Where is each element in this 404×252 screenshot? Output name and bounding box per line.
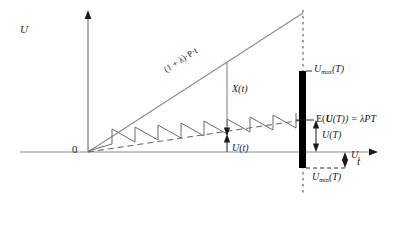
- terminal-range-bar: [299, 71, 306, 168]
- umax-label: Umax(T): [314, 64, 344, 74]
- uT-label: U(T): [322, 130, 341, 140]
- expectation-label: E(U(T)) = λPT: [316, 114, 376, 124]
- umax-sub: max: [321, 68, 332, 75]
- umin-label: Umin(T): [312, 172, 341, 182]
- process-ut-label: U(t): [232, 143, 249, 153]
- mean-drift-line: [88, 120, 303, 152]
- umin-sub: min: [319, 176, 329, 183]
- uT-measure-arrow: [313, 120, 319, 152]
- y-axis-label: U: [20, 24, 28, 35]
- figure-canvas: U t 0 (1 + λ)·P·t X(t) U(t) Umax(T) E(U(…: [0, 0, 404, 252]
- expectation-mid: (T)) =: [333, 113, 360, 124]
- ur-measure-arrow: [342, 152, 348, 168]
- ut-measure-arrow: [224, 134, 230, 152]
- umin-arg: (T): [329, 171, 341, 182]
- expectation-bold-u: U: [325, 113, 332, 124]
- ur-sub: r: [358, 154, 360, 161]
- ur-label: Ur: [351, 150, 360, 160]
- origin-label: 0: [72, 144, 78, 155]
- xt-measure-arrow: [224, 62, 230, 136]
- diagram-svg: [0, 0, 404, 252]
- expectation-rhs: λPT: [360, 113, 376, 124]
- umax-arg: (T): [332, 63, 344, 74]
- process-xt-label: X(t): [232, 84, 248, 94]
- y-axis: [85, 10, 92, 152]
